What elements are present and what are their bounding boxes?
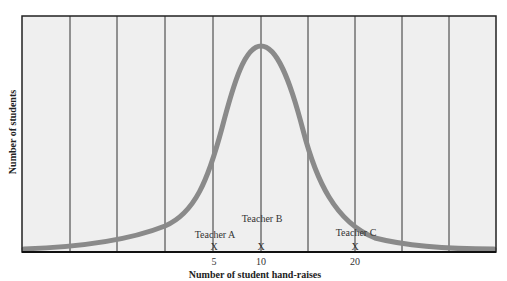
x-tick-20: 20 xyxy=(350,256,360,267)
teacher-b-marker: X xyxy=(257,241,265,252)
x-axis-label: Number of student hand-raises xyxy=(189,269,321,280)
teacher-c-marker: X xyxy=(351,241,359,252)
x-tick-10: 10 xyxy=(256,256,266,267)
chart: Teacher A X Teacher B X Teacher C X 5 10… xyxy=(0,0,507,281)
teacher-c-label: Teacher C xyxy=(336,227,377,238)
teacher-b-label: Teacher B xyxy=(242,213,283,224)
teacher-a-marker: X xyxy=(210,241,218,252)
x-tick-5: 5 xyxy=(212,256,217,267)
teacher-a-label: Teacher A xyxy=(195,229,236,240)
y-axis-label: Number of students xyxy=(7,90,18,174)
